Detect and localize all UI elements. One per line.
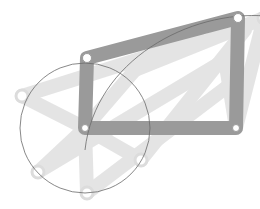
joint-ground-right — [233, 125, 240, 132]
four-bar-linkage-diagram — [0, 0, 260, 209]
joint-crank-tip — [83, 54, 92, 63]
joint-rocker-tip — [234, 14, 243, 23]
linkage-canvas — [0, 0, 260, 209]
joint-ground-left — [82, 125, 89, 132]
